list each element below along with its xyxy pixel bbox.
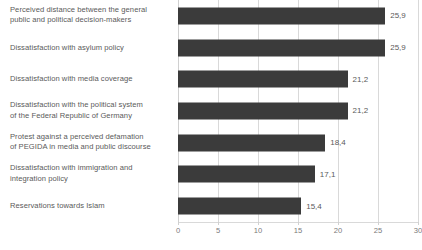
x-tick-label-10: 10	[254, 226, 262, 235]
bar-container: 17,1	[178, 166, 315, 183]
x-tick-mark-10	[258, 222, 259, 225]
x-tick-label-25: 25	[374, 226, 382, 235]
bar[interactable]	[178, 39, 385, 56]
x-tick-label-0: 0	[176, 226, 180, 235]
bar-container: 25,9	[178, 39, 385, 56]
bar-row: Dissatisfaction with asylum policy25,9	[0, 32, 416, 64]
bar-container: 25,9	[178, 7, 385, 24]
bar-value-label: 21,2	[353, 106, 369, 115]
x-tick-mark-20	[338, 222, 339, 225]
bar[interactable]	[178, 134, 325, 151]
gridline-30	[418, 0, 419, 222]
category-label: Dissatisfaction with asylum policy	[10, 42, 174, 53]
x-tick-label-30: 30	[414, 226, 422, 235]
bar[interactable]	[178, 7, 385, 24]
bar[interactable]	[178, 166, 315, 183]
bar-value-label: 25,9	[390, 11, 406, 20]
bar-container: 21,2	[178, 102, 348, 119]
category-label: Reservations towards Islam	[10, 201, 174, 212]
x-tick-label-5: 5	[216, 226, 220, 235]
bar-row: Dissatisfaction with media coverage21,2	[0, 63, 416, 95]
bar-row: Reservations towards Islam15,4	[0, 190, 416, 222]
x-tick-mark-15	[298, 222, 299, 225]
bar[interactable]	[178, 71, 348, 88]
bar-row: Protest against a perceived defamation o…	[0, 127, 416, 159]
x-tick-mark-30	[418, 222, 419, 225]
bar-value-label: 15,4	[306, 202, 322, 211]
bar-value-label: 18,4	[330, 138, 346, 147]
bar-value-label: 25,9	[390, 43, 406, 52]
category-label: Dissatisfaction with the political syste…	[10, 100, 174, 121]
x-tick-label-20: 20	[334, 226, 342, 235]
category-label: Perceived distance between the general p…	[10, 5, 174, 26]
bar-container: 15,4	[178, 198, 301, 215]
x-tick-mark-25	[378, 222, 379, 225]
bar-rows: Perceived distance between the general p…	[0, 0, 416, 222]
x-tick-label-15: 15	[294, 226, 302, 235]
bar-value-label: 17,1	[320, 170, 336, 179]
x-tick-mark-0	[178, 222, 179, 225]
bar-row: Dissatisfaction with immigration and int…	[0, 159, 416, 191]
bar-container: 21,2	[178, 71, 348, 88]
category-label: Dissatisfaction with media coverage	[10, 74, 174, 85]
bar[interactable]	[178, 102, 348, 119]
bar-container: 18,4	[178, 134, 325, 151]
category-label: Protest against a perceived defamation o…	[10, 132, 174, 153]
x-tick-mark-5	[218, 222, 219, 225]
bar-value-label: 21,2	[353, 75, 369, 84]
bar[interactable]	[178, 198, 301, 215]
bar-row: Dissatisfaction with the political syste…	[0, 95, 416, 127]
bar-row: Perceived distance between the general p…	[0, 0, 416, 32]
category-label: Dissatisfaction with immigration and int…	[10, 164, 174, 185]
